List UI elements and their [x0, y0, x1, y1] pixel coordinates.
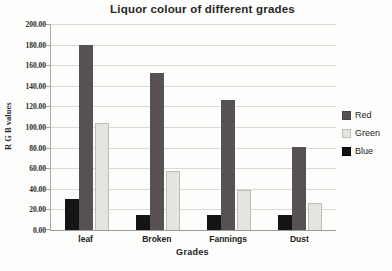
y-tick-mark [46, 45, 50, 46]
y-tick-mark [46, 189, 50, 190]
y-tick-mark [46, 24, 50, 25]
bar-group-Fannings [194, 24, 265, 230]
y-tick-label-120.00: 120.00 [0, 102, 46, 111]
y-tick-mark [46, 168, 50, 169]
bar-Fannings-green [237, 190, 251, 230]
y-tick-label-80.00: 80.00 [0, 144, 46, 153]
y-tick-mark [46, 127, 50, 128]
x-category-label-leaf: leaf [50, 234, 121, 244]
bar-Broken-green [166, 171, 180, 230]
legend-item-blue: Blue [342, 142, 380, 160]
bar-group-leaf [51, 24, 122, 230]
y-tick-label-40.00: 40.00 [0, 185, 46, 194]
legend-label-green: Green [355, 128, 380, 138]
plot-area [50, 24, 336, 231]
legend: RedGreenBlue [342, 106, 380, 160]
y-tick-label-160.00: 160.00 [0, 61, 46, 70]
y-tick-label-180.00: 180.00 [0, 41, 46, 50]
bar-leaf-blue [65, 199, 79, 230]
bar-Broken-red [150, 73, 164, 230]
bar-group-Broken [122, 24, 193, 230]
bar-Dust-red [292, 147, 306, 230]
legend-item-green: Green [342, 124, 380, 142]
y-tick-label-20.00: 20.00 [0, 205, 46, 214]
y-tick-mark [46, 229, 50, 230]
y-tick-label-100.00: 100.00 [0, 123, 46, 132]
x-category-label-Fannings: Fannings [193, 234, 264, 244]
legend-label-blue: Blue [355, 146, 373, 156]
bar-Broken-blue [136, 215, 150, 230]
y-tick-mark [46, 65, 50, 66]
bar-Dust-blue [278, 215, 292, 230]
legend-swatch-red-icon [342, 111, 351, 120]
bar-chart-figure: Liquor colour of different grades R G B … [0, 0, 392, 271]
y-tick-label-0.00: 0.00 [0, 226, 46, 235]
y-tick-label-200.00: 200.00 [0, 20, 46, 29]
y-tick-mark [46, 209, 50, 210]
y-tick-mark [46, 86, 50, 87]
legend-swatch-green-icon [342, 129, 351, 138]
chart-title: Liquor colour of different grades [30, 3, 375, 15]
y-tick-label-140.00: 140.00 [0, 82, 46, 91]
x-axis-title: Grades [50, 247, 335, 257]
bar-Fannings-red [221, 100, 235, 230]
x-category-label-Broken: Broken [121, 234, 192, 244]
bar-Dust-green [308, 203, 322, 230]
legend-item-red: Red [342, 106, 380, 124]
bar-leaf-green [95, 123, 109, 230]
legend-label-red: Red [355, 110, 372, 120]
legend-swatch-blue-icon [342, 147, 351, 156]
y-tick-mark [46, 148, 50, 149]
y-tick-mark [46, 106, 50, 107]
bar-leaf-red [79, 45, 93, 230]
bar-Fannings-blue [207, 215, 221, 230]
bar-group-Dust [265, 24, 336, 230]
y-tick-label-60.00: 60.00 [0, 164, 46, 173]
x-category-label-Dust: Dust [264, 234, 335, 244]
